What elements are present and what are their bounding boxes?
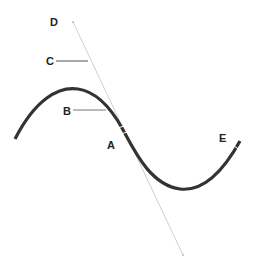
diagram-canvas: D C B A E [0,0,256,265]
label-d: D [50,17,58,28]
label-e: E [219,133,226,144]
label-a: A [107,140,115,151]
point-d [72,21,74,23]
label-b: B [63,106,71,117]
tangent-end-point [182,254,184,256]
label-c: C [46,56,54,67]
curve [15,89,240,190]
diagram-graphics [0,0,256,265]
